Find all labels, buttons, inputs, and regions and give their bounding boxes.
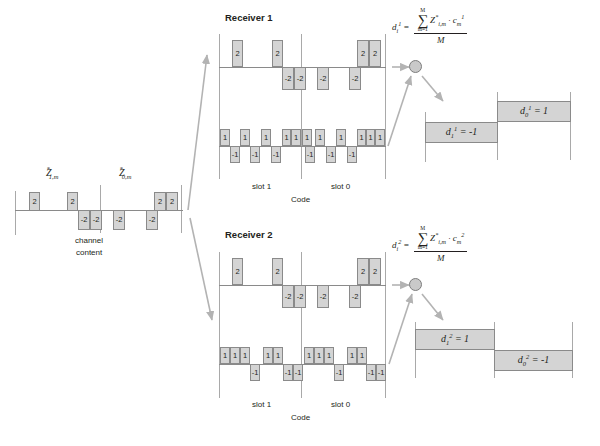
channel-caption-line1: channel: [75, 236, 103, 245]
r1-sum-node: [409, 60, 422, 73]
r1-signal-pulse: -2: [317, 67, 329, 90]
r1-slot0-label: slot 0: [331, 182, 350, 191]
channel-pulse: -2: [78, 210, 90, 230]
r1-code-chip: -1: [326, 146, 336, 163]
r2-code-chip: 1: [304, 347, 314, 364]
r2-code-chip: 1: [263, 347, 273, 364]
r1-code-chip: 1: [261, 129, 271, 146]
r1-signal-pulse: 2: [357, 40, 369, 67]
r2-signal-pulse: -2: [349, 285, 361, 308]
r2-code-chip: 1: [273, 347, 283, 364]
r1-sigma-lower: m=1: [418, 27, 428, 33]
r2-code-chip: 1: [230, 347, 240, 364]
r2-decision-slot1: d12 = 1: [415, 329, 495, 350]
r2-code-chip: 1: [324, 347, 334, 364]
r1-formula-fraction: M ∑ m=1 Z*i,m · cm1 M: [414, 8, 467, 45]
r1-signal-pulse: 2: [272, 40, 283, 67]
r1-formula-denominator: M: [434, 35, 448, 45]
r2-slot0-label: slot 0: [331, 400, 350, 409]
r1-signal-pulse: 2: [232, 40, 243, 67]
r1-code-chip: 1: [302, 129, 312, 146]
r2-formula-fraction: M ∑ m=1 Z*i,m · cm2 M: [414, 226, 467, 263]
r1-decision-slot1: d11 = -1: [425, 122, 498, 143]
r1-code-chip: 1: [336, 129, 346, 146]
channel-pulse: 2: [67, 192, 78, 211]
r2-slot1-label: slot 1: [252, 400, 271, 409]
r1-code-chip: -1: [271, 146, 281, 163]
r1-code-chip: 1: [357, 129, 366, 146]
arrow-channel-to-receiver1: [188, 55, 207, 210]
arrow-channel-to-receiver2: [190, 218, 212, 320]
receiver1-title: Receiver 1: [225, 12, 273, 23]
r1-slot-divider: [301, 34, 302, 179]
r2-code-chip: 1: [220, 347, 230, 364]
r1-formula-equals: =: [403, 22, 409, 32]
r1-signal-pulse: -2: [349, 67, 361, 90]
r2-code-chip: -1: [283, 364, 293, 381]
r2-formula-equals: =: [403, 240, 409, 250]
arrow-r1-sum-to-decision: [422, 76, 443, 101]
r2-code-chip: 1: [357, 347, 367, 364]
channel-pulse: -2: [146, 210, 158, 230]
channel-pulse: 2: [29, 192, 40, 211]
channel-right-boundary: [181, 185, 182, 233]
r1-code-chip: -1: [230, 146, 240, 163]
r1-code-chip: -1: [347, 146, 357, 163]
channel-caption-line2: content: [76, 248, 102, 257]
channel-pulse: 2: [154, 192, 166, 211]
channel-pulse: -2: [113, 210, 125, 230]
r1-code-chip: 1: [366, 129, 375, 146]
r1-code-label: Code: [291, 195, 310, 204]
r1-signal-pulse: -2: [282, 67, 294, 90]
r2-decision-slot0: d02 = -1: [494, 350, 573, 371]
r2-signal-pulse: -2: [294, 285, 306, 308]
r2-formula-lhs: di2: [392, 238, 401, 252]
r1-code-chip: -1: [250, 146, 260, 163]
r2-code-chip: -1: [334, 364, 344, 381]
r2-signal-pulse: -2: [282, 285, 294, 308]
r1-decision-slot0: d01 = 1: [497, 101, 571, 122]
r2-code-chip: 1: [240, 347, 250, 364]
figure-canvas: Z*1,m Z*0,m 2 2 2 2 -2 -2 -2 -2 channel …: [0, 0, 600, 446]
r2-signal-pulse: 2: [272, 258, 283, 285]
r1-formula-numerator: M ∑ m=1 Z*i,m · cm1: [414, 8, 467, 32]
r2-signal-pulse: -2: [317, 285, 329, 308]
r2-correlation-formula: di2 = M ∑ m=1 Z*i,m · cm2 M: [392, 226, 467, 263]
arrow-r2-sum-to-decision: [422, 294, 443, 320]
r2-sigma-lower: m=1: [418, 245, 428, 251]
r1-signal-pulse: -2: [294, 67, 306, 90]
r1-formula-lhs: di1: [392, 20, 401, 34]
sigma-icon: M ∑ m=1: [417, 226, 428, 250]
r2-code-chip: 1: [314, 347, 324, 364]
r2-code-chip: -1: [376, 364, 386, 381]
receiver2-title: Receiver 2: [225, 229, 273, 240]
r2-code-chip: -1: [366, 364, 376, 381]
r1-signal-left-boundary: [219, 34, 220, 179]
r1-slot1-label: slot 1: [252, 182, 271, 191]
r2-formula-denominator: M: [434, 253, 448, 263]
r1-code-chip: 1: [375, 129, 385, 146]
channel-pulse: -2: [90, 210, 102, 230]
r1-code-baseline: [219, 146, 386, 147]
r2-signal-left-boundary: [219, 252, 220, 398]
r1-correlation-formula: di1 = M ∑ m=1 Z*i,m · cm1 M: [392, 8, 467, 45]
r1-code-chip: 1: [315, 129, 325, 146]
r2-code-label: Code: [291, 413, 310, 422]
r2-signal-pulse: 2: [232, 258, 243, 285]
r2-code-chip: -1: [250, 364, 260, 381]
r2-sum-node: [409, 278, 422, 291]
r2-code-chip: -1: [293, 364, 303, 381]
r1-code-chip: -1: [305, 146, 315, 163]
sigma-icon: M ∑ m=1: [417, 8, 428, 32]
r2-signal-pulse: 2: [357, 258, 369, 285]
r2-code-chip: 1: [347, 347, 357, 364]
r1-signal-pulse: 2: [369, 40, 381, 67]
r1-signal-right-boundary: [385, 34, 386, 179]
r2-signal-pulse: 2: [369, 258, 381, 285]
channel-pulse: 2: [166, 192, 178, 211]
channel-label-z0: Z*0,m: [119, 166, 137, 180]
channel-left-boundary: [15, 191, 16, 235]
r1-code-chip: 1: [282, 129, 291, 146]
r1-code-chip: 1: [291, 129, 301, 146]
arrow-r2-code-to-sum: [389, 294, 412, 364]
